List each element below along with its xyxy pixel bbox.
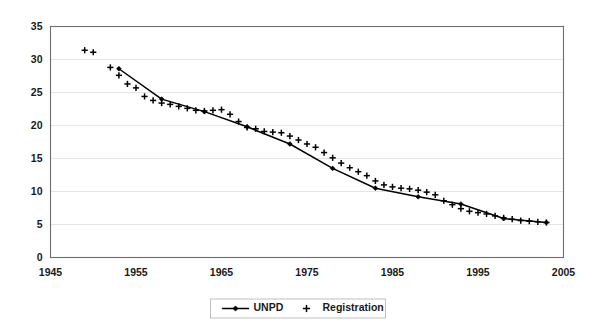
registration-data-point [133,85,139,91]
x-axis-tick-labels: 1945195519651975198519952005 [39,266,576,278]
registration-data-point [330,155,336,161]
registration-data-point [389,184,395,190]
legend-label-registration: Registration [323,301,384,313]
registration-data-point [312,144,318,150]
registration-data-point [338,160,344,166]
registration-data-point [321,149,327,155]
registration-data-point [82,47,88,53]
registration-data-point [304,141,310,147]
y-tick-label: 30 [31,53,43,65]
registration-data-point [381,182,387,188]
y-tick-label: 0 [37,251,43,263]
series-unpd-line [119,69,547,223]
chart-plot-area: 05101520253035 1945195519651975198519952… [0,0,596,328]
registration-data-point [107,64,113,70]
registration-data-point [150,97,156,103]
registration-data-point [210,107,216,113]
y-tick-label: 15 [31,152,43,164]
registration-data-point [398,185,404,191]
unpd-data-point [459,202,464,207]
registration-data-point [270,129,276,135]
x-tick-label: 1955 [124,266,148,278]
registration-data-point [218,107,224,113]
registration-data-point [227,111,233,117]
unpd-data-point [373,186,378,191]
registration-data-point [407,186,413,192]
registration-data-point [116,72,122,78]
chart-container: 05101520253035 1945195519651975198519952… [0,0,596,328]
registration-data-point [364,173,370,179]
registration-data-point [347,165,353,171]
y-tick-label: 20 [31,119,43,131]
y-tick-label: 10 [31,185,43,197]
registration-data-point [278,130,284,136]
x-tick-label: 2005 [552,266,576,278]
unpd-data-point [202,109,207,114]
x-tick-label: 1985 [381,266,405,278]
x-tick-label: 1945 [39,266,63,278]
legend-label-unpd: UNPD [254,301,284,313]
registration-data-point [141,93,147,99]
registration-data-point [287,133,293,139]
y-tick-label: 25 [31,86,43,98]
registration-data-point [355,169,361,175]
registration-data-point [466,208,472,214]
registration-data-point [90,49,96,55]
chart-legend: UNPDRegistration [211,299,386,318]
series-unpd-markers [117,66,549,225]
registration-data-point [124,81,130,87]
x-tick-label: 1975 [295,266,319,278]
x-tick-label: 1995 [466,266,490,278]
series-registration-markers [82,47,550,225]
registration-data-point [372,178,378,184]
x-tick-label: 1965 [210,266,234,278]
registration-data-point [432,192,438,198]
y-tick-label: 5 [37,218,43,230]
y-axis-tick-labels: 05101520253035 [31,20,43,263]
unpd-data-point [416,194,421,199]
unpd-data-point [501,216,506,221]
y-tick-label: 35 [31,20,43,32]
unpd-trend-line [119,69,547,223]
registration-data-point [295,137,301,143]
registration-data-point [424,189,430,195]
registration-data-point [415,187,421,193]
